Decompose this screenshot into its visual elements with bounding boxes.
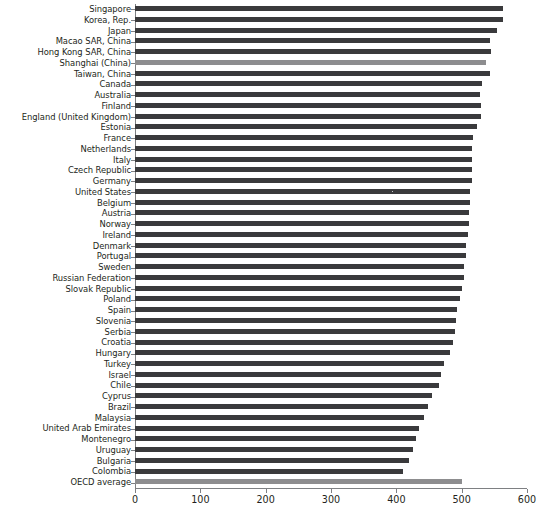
bar-cyprus <box>135 393 432 398</box>
bar-israel <box>135 372 441 377</box>
category-label: Netherlands <box>0 144 131 155</box>
bar-row <box>135 176 527 187</box>
y-axis-tick <box>131 354 135 355</box>
y-axis-tick <box>131 95 135 96</box>
x-axis-tick <box>200 489 201 493</box>
bar-portugal <box>135 253 466 258</box>
category-label: Ireland <box>0 230 131 241</box>
bar-row <box>135 456 527 467</box>
x-axis-tick-label: 500 <box>442 494 482 506</box>
bar-denmark <box>135 243 466 248</box>
bar-row <box>135 58 527 69</box>
y-axis-tick <box>131 149 135 150</box>
x-axis-tick-label: 100 <box>180 494 220 506</box>
y-axis-tick <box>131 321 135 322</box>
bar-finland <box>135 103 481 108</box>
bar-turkey <box>135 361 444 366</box>
y-axis-tick <box>131 343 135 344</box>
y-axis-tick <box>131 450 135 451</box>
category-label: Montenegro <box>0 434 131 445</box>
plot-area <box>135 4 527 488</box>
category-label: OECD average <box>0 477 131 488</box>
category-label: Brazil <box>0 402 131 413</box>
bar-row <box>135 230 527 241</box>
bar-czech-republic <box>135 167 472 172</box>
x-axis-tick <box>396 489 397 493</box>
category-label: Korea, Rep. <box>0 15 131 26</box>
bar-hungary <box>135 350 450 355</box>
bar-row <box>135 241 527 252</box>
bar-singapore <box>135 6 503 11</box>
bar-croatia <box>135 340 453 345</box>
bar-france <box>135 135 473 140</box>
bar-row <box>135 79 527 90</box>
category-label: Canada <box>0 79 131 90</box>
y-axis-tick <box>131 278 135 279</box>
y-axis-tick <box>131 171 135 172</box>
bar-row <box>135 337 527 348</box>
category-label: Singapore <box>0 4 131 15</box>
bar-chile <box>135 383 439 388</box>
y-axis-tick <box>131 31 135 32</box>
bar-russian-federation <box>135 275 464 280</box>
bar-brazil <box>135 404 428 409</box>
category-label: Uruguay <box>0 445 131 456</box>
bar-row <box>135 208 527 219</box>
category-label: Japan <box>0 26 131 37</box>
bar-poland <box>135 296 460 301</box>
bar-row <box>135 15 527 26</box>
y-axis-tick <box>131 42 135 43</box>
bar-united-arab-emirates <box>135 426 419 431</box>
bar-serbia <box>135 329 455 334</box>
bar-row <box>135 348 527 359</box>
bar-row <box>135 133 527 144</box>
bar-row <box>135 477 527 488</box>
category-label: Portugal <box>0 251 131 262</box>
bar-row <box>135 36 527 47</box>
bar-row <box>135 402 527 413</box>
bar-row <box>135 122 527 133</box>
y-axis-tick <box>131 117 135 118</box>
bar-slovenia <box>135 318 456 323</box>
y-axis-tick <box>131 52 135 53</box>
bar-shanghai-china <box>135 60 486 65</box>
category-label: Spain <box>0 305 131 316</box>
y-axis-tick <box>131 214 135 215</box>
bar-row <box>135 101 527 112</box>
category-label: Israel <box>0 370 131 381</box>
category-label: Germany <box>0 176 131 187</box>
x-axis-tick-label: 200 <box>246 494 286 506</box>
bar-row <box>135 380 527 391</box>
bar-row <box>135 294 527 305</box>
bar-row <box>135 423 527 434</box>
x-axis-tick-label: 600 <box>507 494 540 506</box>
bar-row <box>135 262 527 273</box>
bar-norway <box>135 221 469 226</box>
bar-colombia <box>135 469 403 474</box>
category-label: Austria <box>0 208 131 219</box>
y-axis-tick <box>131 74 135 75</box>
category-label: Bulgaria <box>0 456 131 467</box>
category-label: Hungary <box>0 348 131 359</box>
category-label: Australia <box>0 90 131 101</box>
bar-row <box>135 327 527 338</box>
x-axis-tick <box>527 489 528 493</box>
category-label: Slovak Republic <box>0 284 131 295</box>
bar-row <box>135 316 527 327</box>
bar-row <box>135 69 527 80</box>
x-axis-tick-label: 0 <box>115 494 155 506</box>
bar-sweden <box>135 264 464 269</box>
category-label: Shanghai (China) <box>0 58 131 69</box>
y-axis-tick <box>131 203 135 204</box>
bar-row <box>135 413 527 424</box>
bar-row <box>135 219 527 230</box>
category-label: Poland <box>0 294 131 305</box>
bar-row <box>135 90 527 101</box>
y-axis-tick <box>131 332 135 333</box>
bar-belgium <box>135 200 470 205</box>
y-axis-tick <box>131 386 135 387</box>
bar-macao-sar-china <box>135 38 490 43</box>
bar-row <box>135 284 527 295</box>
y-axis-tick <box>131 289 135 290</box>
category-label: Turkey <box>0 359 131 370</box>
